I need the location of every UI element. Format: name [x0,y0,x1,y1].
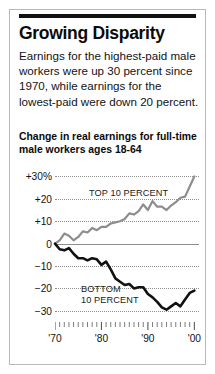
y-axis-label: +10 [12,216,52,227]
x-axis-label: '70 [48,333,61,344]
infographic-figure: Growing Disparity Earnings for the highe… [0,0,215,374]
series-line [55,176,194,243]
series-annotation-top: TOP 10 PERCENT [89,188,168,199]
top-rule-divider [19,14,196,18]
chart-inner-canvas: +30%+20+100−10−20−30TOP 10 PERCENTBOTTOM… [55,172,199,322]
y-axis-label: +30% [12,171,52,182]
x-axis-label: '00 [188,333,201,344]
series-annotation-bottom: BOTTOM10 PERCENT [81,284,139,306]
y-axis-label: 0 [12,238,52,249]
y-axis-label: +20 [12,193,52,204]
x-axis-ticks [55,322,199,331]
y-axis-label: −30 [12,305,52,316]
x-axis-label: '80 [95,333,108,344]
page-title: Growing Disparity [19,24,197,43]
summary-text: Earnings for the highest-paid male worke… [19,48,199,109]
y-axis-label: −10 [12,261,52,272]
x-axis-label: '90 [141,333,154,344]
y-axis-label: −20 [12,283,52,294]
chart-title: Change in real earnings for full-time ma… [19,131,197,156]
chart-plot-area: +30%+20+100−10−20−30TOP 10 PERCENTBOTTOM… [19,160,199,360]
